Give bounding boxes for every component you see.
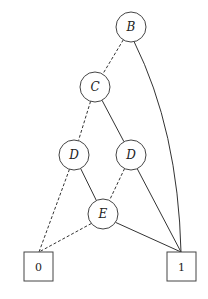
edge-d1-t0-dashed [39, 169, 69, 252]
edge-c-d2-solid [102, 100, 124, 141]
bdd-diagram: BCDDE01 [0, 0, 208, 299]
edge-e-t1-solid [115, 222, 181, 252]
terminal-node-1: 1 [167, 252, 196, 281]
node-label: 1 [178, 261, 185, 274]
node-label: D [125, 148, 136, 162]
nodes: BCDDE01 [24, 12, 196, 281]
terminal-node-0: 0 [24, 252, 53, 281]
node-label: 0 [35, 261, 42, 274]
decision-node-d1: D [59, 140, 89, 170]
edge-d2-e-dashed [109, 169, 124, 201]
node-label: B [126, 20, 136, 34]
decision-node-c: C [80, 72, 110, 102]
edge-b-c-dashed [103, 40, 124, 74]
edge-c-d1-dashed [78, 101, 90, 140]
decision-node-e: E [88, 199, 118, 229]
decision-node-b: B [116, 12, 146, 42]
edge-d1-e-solid [81, 168, 97, 200]
edge-e-t0-dashed [39, 223, 91, 252]
decision-node-d2: D [116, 140, 146, 170]
node-label: C [90, 80, 99, 94]
edge-d2-t1-solid [137, 169, 181, 252]
node-label: D [68, 148, 79, 162]
node-label: E [98, 207, 108, 221]
